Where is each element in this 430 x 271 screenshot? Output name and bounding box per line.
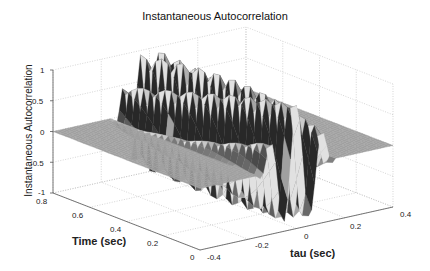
x-tick-0.4: 0.4 bbox=[400, 210, 411, 219]
y-tick-0.6: 0.6 bbox=[72, 211, 83, 220]
x-tick-0.2: 0.2 bbox=[350, 222, 361, 231]
z-axis-label: Instantaneous Autocorrelation bbox=[23, 51, 34, 211]
z-tick-1: 1 bbox=[40, 66, 44, 75]
x-tick--0.4: -0.4 bbox=[207, 253, 221, 262]
x-tick-0: 0 bbox=[304, 232, 308, 241]
z-tick--0.5: -0.5 bbox=[30, 159, 44, 168]
z-tick--1: -1 bbox=[38, 188, 45, 197]
x-tick--0.2: -0.2 bbox=[255, 241, 269, 250]
surface-plot bbox=[0, 0, 430, 271]
z-tick-0.5: 0.5 bbox=[32, 97, 43, 106]
y-tick-0.4: 0.4 bbox=[110, 225, 121, 234]
y-tick-0: 0 bbox=[190, 253, 194, 262]
y-tick-0.2: 0.2 bbox=[147, 239, 158, 248]
x-axis-label: tau (sec) bbox=[290, 247, 335, 259]
y-tick-0.8: 0.8 bbox=[36, 197, 47, 206]
z-tick-0: 0 bbox=[40, 128, 44, 137]
y-axis-label: Time (sec) bbox=[72, 235, 126, 247]
